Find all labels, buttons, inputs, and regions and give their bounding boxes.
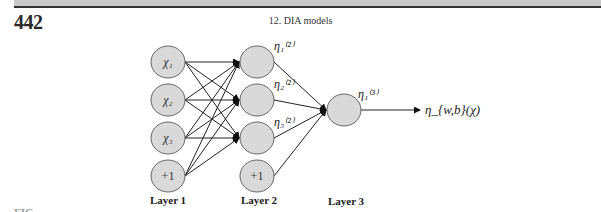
eta-2-2: η₂⁽²⁾ (274, 77, 295, 91)
eta-1-2: η₁⁽²⁾ (274, 39, 295, 53)
eta-3-2: η₃⁽²⁾ (274, 115, 295, 129)
caption-cut: FIG (14, 206, 244, 212)
layer-2-label: Layer 2 (241, 194, 278, 206)
edges (185, 62, 420, 176)
node-x2: χ₂ (162, 93, 172, 107)
bias-node-layer1: +1 (162, 169, 175, 183)
eta-1-3: η₁⁽³⁾ (358, 87, 379, 101)
bias-node-layer2: +1 (251, 169, 264, 183)
layer-3-label: Layer 3 (328, 195, 365, 207)
node-x3: χ₃ (162, 131, 172, 145)
output-label: η_{w,b}(χ) (425, 102, 480, 117)
node-x1: χ₁ (162, 55, 172, 69)
layer-1-label: Layer 1 (150, 194, 186, 206)
neural-network-diagram: χ₁ χ₂ χ₃ +1 +1 η₁⁽²⁾ η₂⁽²⁾ η₃⁽²⁾ η₁⁽³⁾ η… (0, 0, 601, 212)
